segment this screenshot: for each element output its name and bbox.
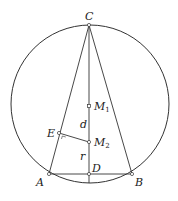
label-r: r	[80, 150, 86, 163]
circumcircle	[11, 25, 169, 183]
point-M2	[87, 140, 90, 143]
label-D: D	[91, 162, 101, 175]
label-M1: M1	[93, 100, 110, 114]
geometry-diagram: C A B D E M1 M2 d r	[0, 0, 178, 201]
label-E: E	[46, 127, 55, 140]
label-C: C	[85, 10, 94, 23]
label-M2: M2	[93, 136, 110, 150]
point-D	[87, 172, 90, 175]
point-E	[57, 131, 60, 134]
point-B	[130, 172, 133, 175]
label-d: d	[80, 118, 87, 131]
segment-EM2	[59, 133, 89, 142]
point-A	[47, 172, 50, 175]
point-M1	[87, 104, 90, 107]
label-A: A	[35, 176, 44, 189]
label-B: B	[134, 176, 143, 189]
right-angle-marker	[62, 136, 66, 139]
point-C	[87, 23, 90, 26]
